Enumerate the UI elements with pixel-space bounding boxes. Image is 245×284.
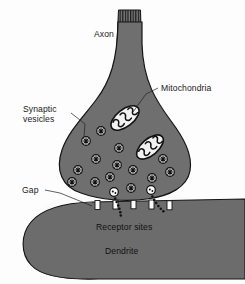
synaptic-vesicle xyxy=(68,178,77,187)
label-axon: Axon xyxy=(94,29,114,39)
synaptic-vesicle xyxy=(127,184,136,193)
released-vesicle xyxy=(110,188,119,197)
synaptic-vesicle xyxy=(129,166,138,175)
synaptic-vesicle xyxy=(97,127,106,136)
synaptic-vesicle xyxy=(159,155,168,164)
synaptic-vesicle xyxy=(106,173,115,182)
synapse-diagram: Axon Mitochondria Synaptic vesicles Gap … xyxy=(0,0,245,284)
synaptic-vesicle xyxy=(74,166,83,175)
synaptic-vesicle xyxy=(166,168,175,177)
label-mitochondria: Mitochondria xyxy=(161,83,212,93)
receptor-site xyxy=(95,201,100,210)
dendrite-body xyxy=(23,199,245,279)
synaptic-vesicle xyxy=(113,161,122,170)
label-gap: Gap xyxy=(22,185,39,195)
synaptic-vesicle xyxy=(91,178,100,187)
synaptic-vesicle xyxy=(148,174,157,183)
synaptic-vesicle xyxy=(92,155,101,164)
label-receptor-sites: Receptor sites xyxy=(96,222,152,232)
released-vesicle xyxy=(147,186,156,195)
receptor-site xyxy=(131,200,136,209)
synaptic-vesicle xyxy=(115,144,124,153)
receptor-site xyxy=(167,201,172,210)
label-dendrite: Dendrite xyxy=(105,246,138,256)
receptor-site xyxy=(149,200,154,209)
diagram-canvas: Axon Mitochondria Synaptic vesicles Gap … xyxy=(0,0,245,284)
synaptic-vesicle xyxy=(82,137,91,146)
label-synaptic-vesicles-line2: vesicles xyxy=(23,114,54,124)
label-synaptic-vesicles-line1: Synaptic xyxy=(23,104,57,114)
